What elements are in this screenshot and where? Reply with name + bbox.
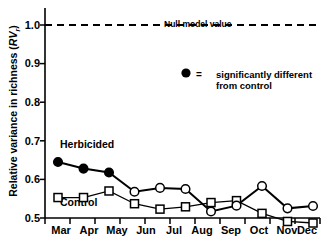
data-point [232, 201, 241, 210]
data-point [207, 199, 215, 207]
data-point [258, 209, 266, 217]
data-point-significant [79, 164, 88, 173]
data-point [182, 203, 190, 211]
data-point [156, 205, 164, 213]
data-point-significant [105, 168, 114, 177]
legend-filled-circle-icon [181, 68, 190, 77]
data-point [131, 200, 139, 208]
data-point [80, 194, 88, 202]
data-point-significant [54, 158, 63, 167]
data-point [130, 187, 139, 196]
data-point [105, 187, 113, 195]
data-point [54, 194, 62, 202]
data-point [207, 207, 216, 216]
plot-area [0, 0, 327, 246]
data-point [309, 202, 318, 211]
chart-figure: Relative variance in richness (RVr) 1.0 … [0, 0, 327, 246]
data-point [181, 185, 190, 194]
data-point [258, 182, 267, 191]
data-point [283, 204, 292, 213]
data-point [156, 184, 165, 193]
data-point [284, 217, 292, 225]
data-point [309, 219, 317, 227]
